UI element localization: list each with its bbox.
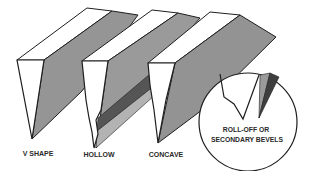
label-hollow: HOLLOW <box>83 151 114 158</box>
label-v-shape: V SHAPE <box>23 150 54 157</box>
detail-callout: ROLL-OFF OR SECONDARY BEVELS <box>199 73 297 171</box>
callout-text-line2: SECONDARY BEVELS <box>211 136 284 143</box>
grind-profiles-diagram: ROLL-OFF OR SECONDARY BEVELS V SHAPE HOL… <box>0 0 310 171</box>
magnifier-circle <box>199 73 297 171</box>
callout-text-line1: ROLL-OFF OR <box>223 126 270 133</box>
label-concave: CONCAVE <box>149 151 184 158</box>
